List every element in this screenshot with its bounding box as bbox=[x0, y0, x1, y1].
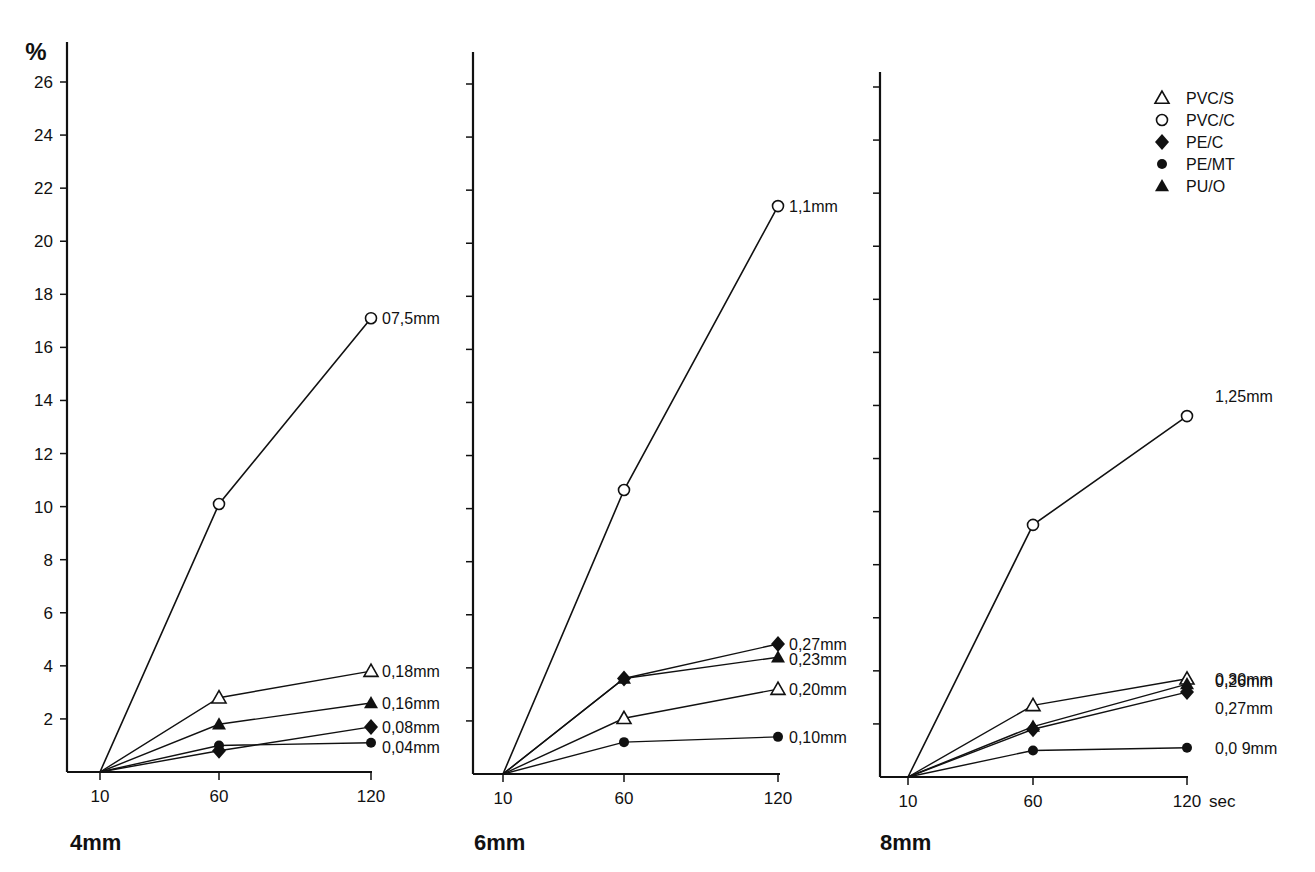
chart-panel-4mm: 2468101214161820222426%10601204mm07,5mm0… bbox=[25, 38, 439, 855]
filled-diamond-marker bbox=[771, 636, 785, 652]
series-end-label: 0,0 9mm bbox=[1215, 740, 1277, 757]
filled-circle-marker bbox=[1182, 743, 1192, 753]
open-circle-marker bbox=[773, 201, 784, 212]
filled-diamond-marker bbox=[1026, 721, 1040, 737]
series-line bbox=[908, 748, 1187, 777]
x-tick-label: 120 bbox=[764, 789, 792, 808]
x-tick-label: 10 bbox=[494, 789, 513, 808]
x-tick-label: 120 bbox=[1173, 792, 1201, 811]
y-tick-label: 10 bbox=[34, 498, 53, 517]
filled-circle-marker bbox=[1157, 159, 1167, 169]
y-tick-label: 22 bbox=[34, 179, 53, 198]
x-tick-label: 120 bbox=[357, 787, 385, 806]
x-tick-label: 60 bbox=[1024, 792, 1043, 811]
filled-diamond-marker bbox=[364, 719, 378, 735]
open-triangle-marker bbox=[364, 664, 378, 676]
series-pe-c: 0,27mm bbox=[908, 684, 1273, 777]
filled-triangle-marker bbox=[364, 696, 378, 708]
open-triangle-marker bbox=[771, 682, 785, 694]
filled-triangle-marker bbox=[771, 650, 785, 662]
filled-circle-marker bbox=[214, 740, 224, 750]
y-tick-label: 12 bbox=[34, 445, 53, 464]
y-tick-label: 6 bbox=[44, 604, 53, 623]
series-end-label: 0,18mm bbox=[382, 663, 440, 680]
series-end-label: 0,16mm bbox=[382, 695, 440, 712]
legend: PVC/SPVC/CPE/CPE/MTPU/O bbox=[1155, 90, 1235, 195]
y-tick-label: 18 bbox=[34, 285, 53, 304]
open-circle-marker bbox=[619, 485, 630, 496]
open-circle-marker bbox=[366, 313, 377, 324]
y-tick-label: 24 bbox=[34, 126, 53, 145]
panel-title: 4mm bbox=[70, 830, 121, 855]
legend-label: PE/C bbox=[1186, 134, 1223, 151]
y-tick-label: 20 bbox=[34, 232, 53, 251]
y-tick-label: 26 bbox=[34, 73, 53, 92]
y-tick-label: 8 bbox=[44, 551, 53, 570]
series-line bbox=[908, 692, 1187, 777]
x-tick-label: 60 bbox=[210, 787, 229, 806]
series-end-label: 07,5mm bbox=[382, 310, 440, 327]
series-pe-mt: 0,10mm bbox=[503, 729, 847, 774]
legend-label: PVC/C bbox=[1186, 112, 1235, 129]
series-line bbox=[503, 206, 778, 774]
panel-title: 8mm bbox=[880, 830, 931, 855]
series-pu-o: 0,23mm bbox=[503, 650, 847, 774]
y-tick-label: 16 bbox=[34, 338, 53, 357]
y-tick-label: 2 bbox=[44, 710, 53, 729]
series-end-label: 1,1mm bbox=[789, 198, 838, 215]
y-tick-label: 14 bbox=[34, 391, 53, 410]
filled-circle-marker bbox=[773, 732, 783, 742]
series-line bbox=[100, 727, 371, 772]
filled-diamond-marker bbox=[1155, 134, 1169, 150]
x-unit-label: sec bbox=[1209, 792, 1236, 811]
filled-circle-marker bbox=[1028, 745, 1038, 755]
series-line bbox=[100, 703, 371, 772]
series-pvc-c: 1,1mm bbox=[503, 198, 838, 774]
open-circle-marker bbox=[1157, 115, 1168, 126]
filled-circle-marker bbox=[619, 737, 629, 747]
series-end-label: 0,04mm bbox=[382, 739, 440, 756]
series-line bbox=[908, 684, 1187, 777]
series-end-label: 0,10mm bbox=[789, 729, 847, 746]
y-unit-label: % bbox=[25, 38, 46, 65]
y-tick-label: 4 bbox=[44, 657, 53, 676]
open-circle-marker bbox=[214, 498, 225, 509]
open-circle-marker bbox=[1028, 519, 1039, 530]
series-end-label: 0,20mm bbox=[789, 681, 847, 698]
panel-title: 6mm bbox=[474, 830, 525, 855]
chart-panel-6mm: 10601206mm1,1mm0,27mm0,23mm0,20mm0,10mm bbox=[466, 52, 847, 855]
x-tick-label: 10 bbox=[91, 787, 110, 806]
filled-circle-marker bbox=[366, 738, 376, 748]
legend-label: PU/O bbox=[1186, 178, 1225, 195]
series-end-label: 0,26mm bbox=[1215, 673, 1273, 690]
chart-figure: 2468101214161820222426%10601204mm07,5mm0… bbox=[0, 0, 1315, 872]
x-tick-label: 10 bbox=[899, 792, 918, 811]
legend-label: PVC/S bbox=[1186, 90, 1234, 107]
legend-label: PE/MT bbox=[1186, 156, 1235, 173]
series-line bbox=[503, 689, 778, 774]
x-tick-label: 60 bbox=[615, 789, 634, 808]
series-end-label: 0,23mm bbox=[789, 651, 847, 668]
filled-triangle-marker bbox=[1155, 179, 1169, 191]
open-triangle-marker bbox=[1155, 91, 1169, 103]
series-end-label: 0,27mm bbox=[1215, 700, 1273, 717]
series-pu-o: 0,26mm bbox=[908, 673, 1273, 777]
series-pvc-c: 1,25mm bbox=[908, 388, 1273, 777]
series-end-label: 0,08mm bbox=[382, 719, 440, 736]
open-circle-marker bbox=[1182, 411, 1193, 422]
series-line bbox=[100, 318, 371, 772]
series-end-label: 1,25mm bbox=[1215, 388, 1273, 405]
